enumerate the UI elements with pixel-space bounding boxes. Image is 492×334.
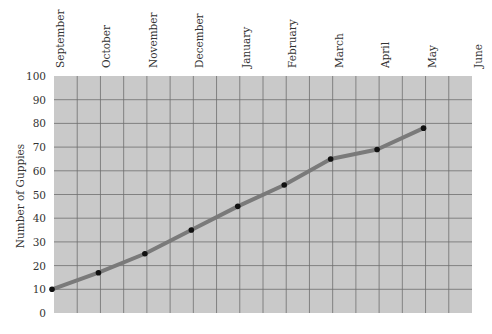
y-tick-label: 10 [33, 283, 46, 295]
x-month-label: April [379, 41, 391, 69]
data-point [328, 156, 334, 162]
x-month-label: June [472, 44, 484, 69]
y-tick-label: 100 [26, 70, 46, 82]
x-month-label: March [333, 33, 345, 68]
y-tick-label: 0 [39, 307, 46, 319]
y-tick-label: 80 [33, 117, 46, 129]
x-axis-month-labels: SeptemberOctoberNovemberDecemberJanuaryF… [54, 9, 484, 69]
data-point [281, 182, 287, 188]
y-tick-label: 60 [33, 165, 46, 177]
data-point [189, 227, 195, 233]
data-point [96, 270, 102, 276]
x-month-label: January [240, 27, 252, 69]
x-month-label: February [286, 19, 298, 68]
x-month-label: December [193, 12, 205, 68]
data-point [49, 287, 55, 293]
y-tick-label: 30 [33, 236, 46, 248]
y-tick-label: 50 [33, 189, 46, 201]
line-chart: 0102030405060708090100 SeptemberOctoberN… [0, 0, 492, 334]
data-point [142, 251, 148, 257]
data-point [374, 147, 380, 153]
data-point [235, 204, 241, 210]
y-tick-label: 90 [33, 94, 46, 106]
y-axis-ticks: 0102030405060708090100 [26, 70, 46, 319]
y-tick-label: 20 [33, 260, 46, 272]
y-tick-label: 40 [33, 212, 46, 224]
x-month-label: October [100, 24, 112, 68]
x-month-label: September [54, 9, 66, 68]
x-month-label: November [147, 11, 159, 68]
y-tick-label: 70 [33, 141, 46, 153]
x-month-label: May [426, 45, 438, 68]
y-axis-label: Number of Guppies [14, 144, 26, 248]
data-point [421, 125, 427, 131]
